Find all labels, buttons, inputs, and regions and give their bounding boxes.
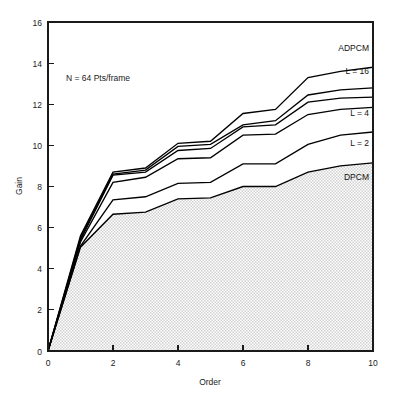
annotation-frame-size: N = 64 Pts/frame xyxy=(66,73,130,83)
x-tick-8: 8 xyxy=(306,358,311,368)
x-tick-10: 10 xyxy=(368,358,378,368)
curve-label-l2: L = 2 xyxy=(350,138,369,148)
y-tick-12: 12 xyxy=(33,100,43,110)
x-axis-tick-labels: 0 2 4 6 8 10 xyxy=(46,358,378,368)
curve-label-dpcm: DPCM xyxy=(344,172,369,182)
y-axis-ticks xyxy=(48,22,54,351)
x-tick-0: 0 xyxy=(46,358,51,368)
y-axis-tick-labels: 0 2 4 6 8 10 12 14 16 xyxy=(33,18,43,357)
dpcm-shaded-area xyxy=(48,163,373,351)
y-axis-title: Gain xyxy=(14,177,24,195)
y-tick-0: 0 xyxy=(37,347,42,357)
y-tick-2: 2 xyxy=(37,305,42,315)
x-tick-4: 4 xyxy=(176,358,181,368)
curve-label-adpcm: ADPCM xyxy=(338,43,369,53)
y-tick-4: 4 xyxy=(37,264,42,274)
x-axis-title: Order xyxy=(199,377,221,387)
curve-label-l16: L = 16 xyxy=(345,66,369,76)
curve-label-l4: L = 4 xyxy=(350,108,369,118)
y-tick-16: 16 xyxy=(33,18,43,28)
gain-vs-order-chart: 0 2 4 6 8 10 12 14 16 0 2 4 6 8 10 xyxy=(0,0,394,398)
chart-figure: 0 2 4 6 8 10 12 14 16 0 2 4 6 8 10 xyxy=(0,0,394,398)
y-tick-14: 14 xyxy=(33,59,43,69)
y-tick-10: 10 xyxy=(33,141,43,151)
x-tick-6: 6 xyxy=(241,358,246,368)
y-tick-6: 6 xyxy=(37,223,42,233)
x-tick-2: 2 xyxy=(111,358,116,368)
y-tick-8: 8 xyxy=(37,182,42,192)
